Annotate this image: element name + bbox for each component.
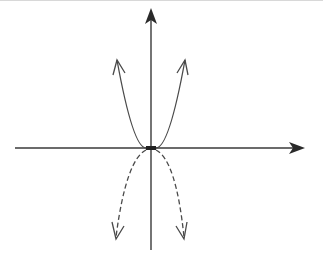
downward-parabola xyxy=(116,150,184,237)
y-axis xyxy=(145,8,157,250)
downward-parabola-arrows xyxy=(112,222,187,239)
downward-parabola-right-arrow-icon xyxy=(176,222,187,239)
diagram-canvas xyxy=(0,0,323,260)
origin-marker xyxy=(146,146,156,150)
